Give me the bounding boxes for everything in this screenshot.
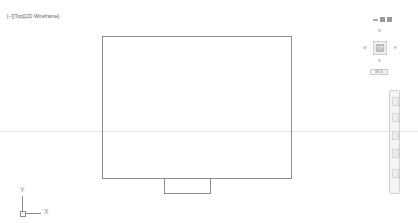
view-cube-top-face[interactable]: TOP xyxy=(376,44,384,52)
view-cube[interactable]: TOP xyxy=(373,41,387,55)
ucs-origin-icon xyxy=(20,211,26,217)
minimize-icon[interactable] xyxy=(373,19,378,21)
navigation-bar[interactable] xyxy=(389,90,400,194)
showmotion-icon[interactable] xyxy=(392,169,399,178)
zoom-extents-icon[interactable] xyxy=(392,131,399,140)
main-rectangle[interactable] xyxy=(102,36,292,179)
drawing-canvas[interactable] xyxy=(0,0,418,223)
wcs-dropdown[interactable]: WCS xyxy=(370,69,388,75)
compass-west[interactable]: W xyxy=(363,45,367,50)
restore-icon[interactable] xyxy=(380,17,385,22)
tab-rectangle[interactable] xyxy=(164,178,211,194)
pan-icon[interactable] xyxy=(392,113,399,122)
compass-east[interactable]: E xyxy=(394,45,397,50)
ucs-y-label: Y xyxy=(20,186,25,193)
viewport-tiles[interactable] xyxy=(373,17,392,22)
compass-north[interactable]: N xyxy=(378,28,381,33)
viewport-controls-label[interactable]: [−][Top][2D Wireframe] xyxy=(7,13,59,19)
orbit-icon[interactable] xyxy=(392,149,399,158)
view-menu[interactable]: [Top] xyxy=(13,13,24,19)
compass-south[interactable]: S xyxy=(378,58,381,63)
maximize-icon[interactable] xyxy=(387,17,392,22)
steering-wheel-icon[interactable] xyxy=(392,97,399,106)
ucs-x-label: X xyxy=(44,208,49,215)
visual-style-menu[interactable]: [2D Wireframe] xyxy=(24,13,59,19)
